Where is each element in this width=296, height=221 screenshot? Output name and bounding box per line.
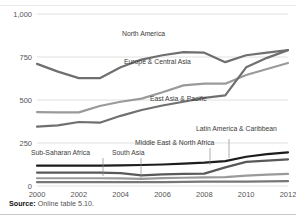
x-axis-tick-label: 2012 [280, 190, 296, 199]
line-chart: 02505007501,0002000200220042006200820102… [0, 0, 296, 221]
series-label-europe-central-asia: Europe & Central Asia [124, 58, 191, 66]
series-label-north-america: North America [122, 30, 165, 37]
y-axis-tick-label: 500 [19, 96, 32, 105]
x-axis-tick-label: 2008 [196, 190, 213, 199]
series-label-middle-east-north-africa: Middle East & North Africa [135, 139, 215, 146]
series-label-latin-america-caribbean: Latin America & Caribbean [196, 125, 277, 132]
x-axis-tick-label: 2000 [29, 190, 46, 199]
x-axis-tick-label: 2002 [70, 190, 87, 199]
series-label-south-asia: South Asia [112, 149, 145, 156]
y-axis-tick-label: 750 [19, 53, 32, 62]
source-note: Source: Online table 5.10. [9, 199, 94, 208]
y-axis-tick-label: 250 [19, 139, 32, 148]
x-axis-tick-label: 2004 [112, 190, 129, 199]
series-line-middle-east-north-africa [37, 159, 288, 175]
source-text: Online table 5.10. [36, 199, 94, 208]
series-line-sub-saharan-africa [37, 181, 288, 182]
x-axis-tick-label: 2006 [154, 190, 171, 199]
series-label-east-asia-pacific: East Asia & Pacific [150, 95, 207, 102]
figure-container: 02505007501,0002000200220042006200820102… [0, 0, 296, 221]
bottom-divider [0, 214, 296, 215]
source-label: Source: [9, 199, 36, 208]
y-axis-tick-label: 1,000 [13, 10, 32, 19]
x-axis-tick-label: 2010 [238, 190, 255, 199]
series-label-sub-saharan-africa: Sub-Saharan Africa [31, 149, 90, 156]
